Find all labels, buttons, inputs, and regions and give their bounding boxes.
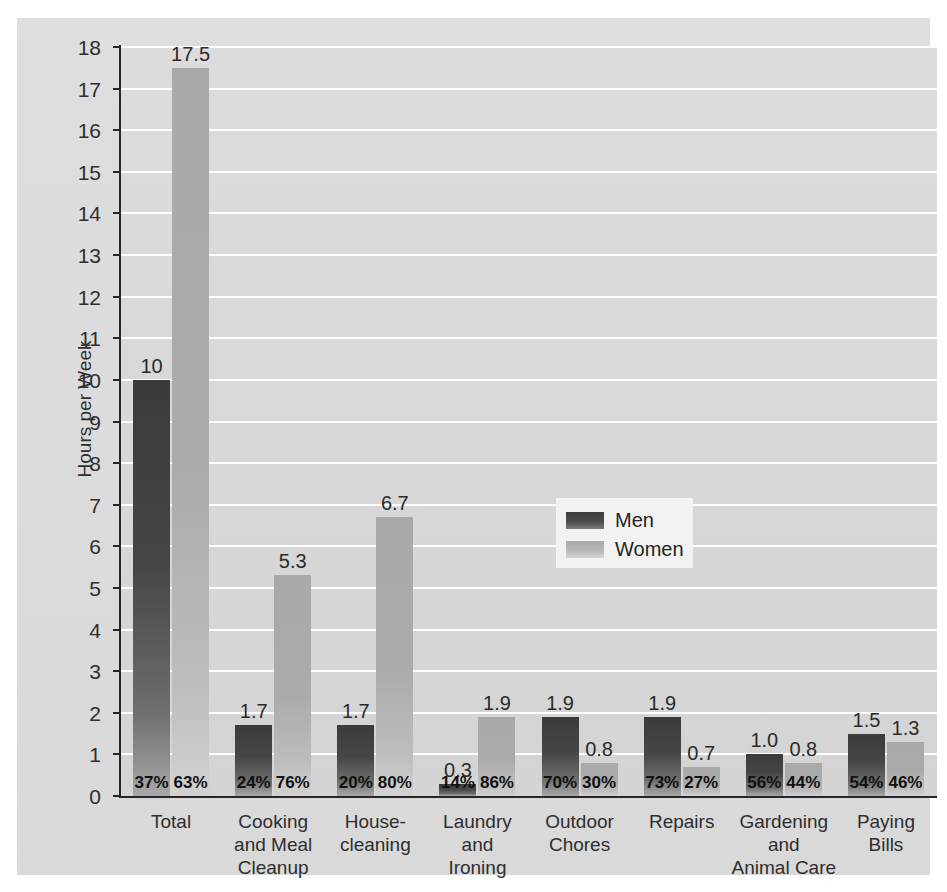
gridline [120,462,937,464]
bar-value-label: 1.9 [464,693,529,713]
legend-swatch-women-icon [566,541,604,558]
x-axis-category-label-line: Ironing [420,856,534,879]
bar-percent-label: 27% [680,774,723,791]
bar-percent-label: 44% [782,774,825,791]
gridline [120,212,937,214]
bar-percent-label: 76% [271,774,314,791]
y-axis-tick-label: 18 [53,37,101,58]
bar-percent-label: 24% [232,774,275,791]
y-axis-tick [113,212,120,214]
gridline [120,379,937,381]
x-axis-category-label-line: Total [114,810,228,833]
bar-men[interactable] [133,380,170,796]
gridline [120,629,937,631]
bar-value-label: 0.7 [669,743,734,763]
y-axis-tick [113,795,120,797]
x-axis-category-label-line: and Meal [216,833,330,856]
bar-value-label: 6.7 [362,493,427,513]
x-axis-category-label-line: cleaning [318,833,432,856]
bar-percent-label: 56% [743,774,786,791]
x-axis-category-label-line: Repairs [625,810,739,833]
bar-women[interactable] [376,517,413,796]
y-axis-tick [113,712,120,714]
bar-value-label: 0.8 [771,739,836,759]
bar-percent-label: 20% [334,774,377,791]
x-axis-category-label-line: Animal Care [727,856,841,879]
bar-percent-label: 70% [539,774,582,791]
bar-value-label: 17.5 [158,44,223,64]
y-axis-tick [113,753,120,755]
gridline [120,421,937,423]
y-axis-tick-label: 3 [53,661,101,682]
x-axis-category-label: Total [114,810,228,833]
y-axis-tick [113,379,120,381]
gridline [120,46,937,48]
x-axis-category-label-line: Chores [523,833,637,856]
bar-percent-label: 80% [373,774,416,791]
y-axis-tick-label: 14 [53,203,101,224]
bar-percent-label: 37% [130,774,173,791]
x-axis-line [119,796,937,798]
gridline [120,670,937,672]
x-axis-category-label: GardeningandAnimal Care [727,810,841,880]
x-axis-category-label-line: House- [318,810,432,833]
y-axis-tick [113,129,120,131]
y-axis-tick-label: 13 [53,245,101,266]
y-axis-tick [113,337,120,339]
y-axis-tick-label: 1 [53,744,101,765]
y-axis-tick-label: 16 [53,120,101,141]
bar-value-label: 1.9 [630,693,695,713]
legend-item-women[interactable]: Women [566,536,684,562]
bar-value-label: 5.3 [260,551,325,571]
gridline [120,171,937,173]
x-axis-category-label-line: Paying [829,810,943,833]
y-axis-tick-label: 2 [53,702,101,723]
y-axis-title: Hours per Week [74,309,96,509]
gridline [120,504,937,506]
plot-area [120,47,937,796]
x-axis-category-label: PayingBills [829,810,943,856]
gridline [120,254,937,256]
bar-percent-label: 73% [641,774,684,791]
legend-label-men: Men [615,510,654,530]
gridline [120,545,937,547]
gridline [120,337,937,339]
bar-percent-label: 54% [845,774,888,791]
bar-women[interactable] [274,575,311,796]
x-axis-category-label-line: and [420,833,534,856]
gridline [120,296,937,298]
y-axis-tick [113,421,120,423]
legend-label-women: Women [615,539,684,559]
y-axis-tick [113,254,120,256]
x-axis-category-label: House-cleaning [318,810,432,856]
y-axis-tick-label: 0 [53,786,101,807]
legend: Men Women [556,498,693,568]
x-axis-category-label-line: Cooking [216,810,330,833]
x-axis-category-label-line: and [727,833,841,856]
x-axis-category-label-line: Outdoor [523,810,637,833]
bar-percent-label: 14% [436,774,479,791]
chart-card: 0123456789101112131415161718 Hours per W… [17,18,930,875]
y-axis-tick [113,670,120,672]
y-axis-tick [113,504,120,506]
bar-percent-label: 30% [578,774,621,791]
bar-women[interactable] [172,68,209,796]
bar-percent-label: 63% [169,774,212,791]
x-axis-category-label-line: Bills [829,833,943,856]
x-axis-category-label-line: Cleanup [216,856,330,879]
bar-value-label: 1.9 [528,693,593,713]
bar-percent-label: 46% [884,774,927,791]
y-axis-tick [113,171,120,173]
x-axis-category-label-line: Laundry [420,810,534,833]
y-axis-tick [113,46,120,48]
y-axis-tick [113,587,120,589]
bar-percent-label: 86% [475,774,518,791]
y-axis-tick [113,462,120,464]
y-axis-tick-label: 6 [53,536,101,557]
legend-item-men[interactable]: Men [566,507,654,533]
y-axis-tick-label: 5 [53,577,101,598]
gridline [120,587,937,589]
chart-root: 0123456789101112131415161718 Hours per W… [0,0,947,892]
y-axis-tick [113,296,120,298]
x-axis-category-label: OutdoorChores [523,810,637,856]
